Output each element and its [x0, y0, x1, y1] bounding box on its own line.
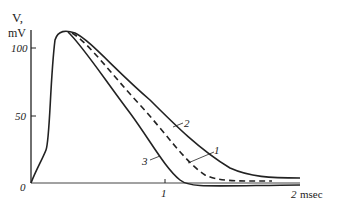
y-label-unit: mV [8, 26, 26, 40]
x-axis-unit: msec [300, 188, 323, 200]
x-tick-label-2: 2 [291, 188, 297, 200]
curve-2 [31, 31, 300, 183]
curve-label-2: 2 [184, 117, 190, 129]
y-tick-label-50: 50 [15, 110, 27, 122]
leader-1 [188, 152, 214, 163]
y-label-v: V, [12, 10, 23, 25]
curve-label-1: 1 [214, 144, 220, 156]
leader-3 [150, 156, 160, 160]
x-tick-label-1: 1 [161, 187, 167, 199]
curve-label-3: 3 [141, 155, 148, 167]
y-tick-label-0: 0 [20, 181, 26, 193]
y-tick-label-100: 100 [11, 42, 28, 54]
action-potential-chart: V, mV 100 50 0 1 2 msec 2 1 3 [0, 0, 340, 208]
